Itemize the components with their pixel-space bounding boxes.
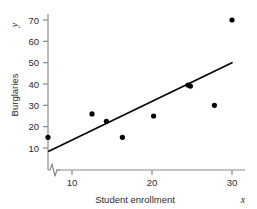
- x-tick-label-20: 20: [147, 177, 158, 188]
- x-tick-label-10: 10: [67, 177, 78, 188]
- y-tick-label-60: 60: [28, 36, 39, 47]
- y-axis-title-variable: y: [9, 22, 20, 28]
- data-point: [229, 17, 234, 22]
- data-point: [120, 135, 125, 140]
- x-axis-break-icon: [48, 164, 60, 176]
- y-tick-label-10: 10: [28, 143, 39, 154]
- y-tick-label-30: 30: [28, 100, 39, 111]
- plot-canvas: 70 60 50 40 30 20 10 10 20 30 Student en…: [0, 0, 257, 209]
- y-axis-title: Burglaries: [9, 73, 20, 116]
- data-point: [188, 84, 193, 89]
- data-point: [104, 119, 109, 124]
- y-tick-label-50: 50: [28, 57, 39, 68]
- x-axis-title: Student enrollment: [95, 194, 175, 205]
- data-point: [151, 113, 156, 118]
- y-tick-label-20: 20: [28, 121, 39, 132]
- x-axis-title-variable: x: [240, 194, 246, 205]
- y-tick-label-70: 70: [28, 15, 39, 26]
- data-point: [212, 103, 217, 108]
- y-tick-label-40: 40: [28, 79, 39, 90]
- x-tick-label-30: 30: [227, 177, 238, 188]
- data-point: [45, 135, 50, 140]
- data-point: [89, 111, 94, 116]
- regression-line: [49, 63, 232, 152]
- scatter-plot-figure: 70 60 50 40 30 20 10 10 20 30 Student en…: [0, 0, 257, 209]
